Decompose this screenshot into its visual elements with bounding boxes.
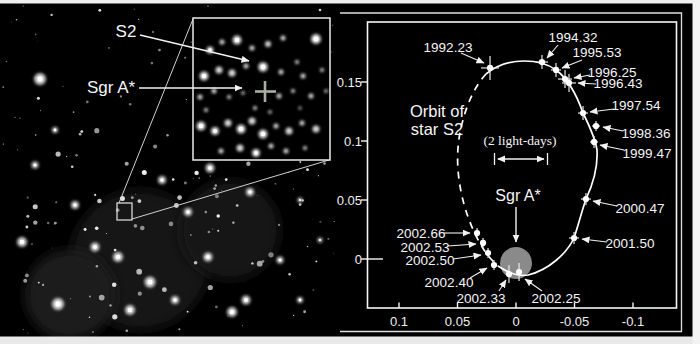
year-label-2002.53: 2002.53	[401, 240, 450, 255]
inset-star	[250, 46, 255, 51]
star	[327, 238, 329, 240]
orbit-title-line1: Orbit of	[410, 102, 464, 120]
star	[332, 25, 334, 27]
inset-star-core	[235, 38, 240, 43]
star	[95, 227, 99, 231]
bright-star-core	[73, 203, 77, 207]
star	[315, 260, 317, 262]
inset-star-core	[254, 151, 258, 155]
star	[94, 128, 99, 133]
star	[306, 168, 309, 171]
sgra-label: Sgr A*	[87, 78, 135, 98]
inset-star	[216, 67, 223, 74]
star	[40, 110, 41, 111]
star	[217, 230, 219, 232]
data-point-1997.54	[580, 110, 586, 116]
star	[303, 310, 306, 313]
inset-star	[295, 60, 299, 64]
star	[98, 9, 101, 12]
star	[19, 118, 20, 119]
star	[27, 332, 28, 333]
star	[169, 222, 174, 227]
star	[242, 325, 243, 326]
star	[94, 194, 96, 196]
inset-star	[253, 106, 257, 110]
bright-star-core	[93, 245, 97, 249]
inset-star-core	[213, 129, 217, 133]
star	[71, 165, 74, 168]
inset-star	[284, 149, 289, 154]
bright-star-core	[244, 298, 248, 302]
star	[92, 331, 94, 333]
star	[73, 111, 75, 113]
star	[26, 215, 29, 218]
star	[14, 117, 15, 118]
inset-star	[269, 144, 274, 149]
star	[140, 226, 145, 231]
star	[96, 265, 98, 267]
star	[35, 134, 37, 136]
star	[166, 134, 169, 137]
inset-star	[219, 149, 224, 154]
bright-star-core	[116, 255, 121, 260]
x-axis-tick-label: -0.05	[560, 314, 590, 329]
inset-star-core	[239, 127, 244, 132]
star	[25, 226, 28, 229]
star	[138, 292, 142, 296]
star	[293, 188, 294, 189]
inset-star	[229, 70, 236, 77]
inset-star	[249, 118, 256, 125]
inset-star-core	[261, 132, 266, 137]
year-label-2002.50: 2002.50	[406, 253, 455, 268]
star	[278, 224, 280, 226]
star	[158, 49, 161, 52]
inset-star	[300, 121, 305, 126]
inset-star	[220, 40, 225, 45]
figure-s2-orbit: S2 Sgr A* Orbit of star S2 (2 light-days…	[0, 0, 700, 344]
star	[6, 61, 8, 63]
star	[56, 152, 61, 157]
star	[126, 329, 129, 332]
star	[37, 41, 38, 42]
bright-star-core	[20, 240, 25, 245]
inset-star	[265, 41, 271, 47]
bright-star-core	[37, 76, 42, 81]
bright-star-core	[54, 129, 57, 132]
star	[184, 57, 186, 59]
star	[37, 97, 40, 100]
data-point-1992.23	[487, 65, 493, 71]
star	[38, 282, 40, 284]
year-label-2000.47: 2000.47	[616, 201, 665, 216]
star	[208, 285, 213, 290]
year-label-1999.47: 1999.47	[623, 146, 672, 161]
sgra-plot-label: Sgr A*	[495, 187, 540, 205]
star	[131, 196, 134, 199]
inset-star	[241, 91, 245, 95]
right-margin-strip	[693, 0, 700, 344]
inset-star	[313, 126, 320, 133]
inset-star	[279, 70, 284, 75]
star	[172, 178, 175, 181]
inset-star	[320, 68, 324, 72]
bright-star-core	[173, 298, 177, 302]
year-label-1998.36: 1998.36	[622, 126, 671, 141]
star	[79, 133, 82, 136]
star	[288, 273, 291, 276]
star	[11, 22, 12, 23]
year-label-1992.23: 1992.23	[424, 40, 473, 55]
x-axis-tick-label: 0.05	[445, 314, 470, 329]
star	[221, 190, 222, 191]
star	[312, 289, 314, 291]
inset-zoom-box	[193, 18, 330, 160]
s2-label: S2	[116, 22, 137, 42]
star	[116, 208, 120, 212]
star	[299, 203, 302, 206]
bright-star-core	[278, 258, 281, 261]
year-label-1995.53: 1995.53	[573, 45, 622, 60]
star	[208, 231, 211, 234]
inset-star	[212, 89, 217, 94]
data-point-2002.53	[480, 240, 486, 246]
data-point-1999.47	[591, 139, 597, 145]
star	[86, 101, 89, 104]
star	[129, 103, 132, 106]
